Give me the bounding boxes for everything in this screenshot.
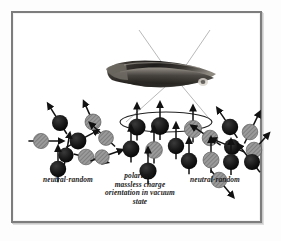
particle-sphere-light [184, 120, 201, 137]
ray-line [139, 30, 174, 80]
particle-spin [50, 107, 68, 134]
particle-sphere-light [95, 150, 109, 164]
figure-frame: neutral-random polarized-massless charge… [11, 11, 262, 223]
particle-spin [219, 111, 238, 138]
particle-sphere-dark [123, 141, 140, 158]
particle-sphere-light [78, 149, 94, 165]
figure-frame-inner: neutral-random polarized-massless charge… [13, 13, 260, 221]
particle-sphere-light [242, 124, 258, 140]
particle-sphere-dark [222, 119, 238, 135]
particle-spin [242, 115, 258, 143]
particle-sphere-dark [58, 147, 73, 162]
particle-sphere-light [85, 114, 101, 130]
caption-center: polarized-massless chargeorientation in … [97, 172, 183, 207]
ray-line [182, 86, 212, 122]
particle-sphere-dark [223, 154, 239, 170]
particle-sphere-dark [70, 133, 87, 150]
particle-spin [28, 133, 59, 148]
left-cluster [28, 105, 119, 183]
particle-sphere-light [33, 133, 48, 148]
particle-sphere-light [99, 131, 114, 146]
particle-sphere-dark [168, 138, 184, 154]
caption-right: neutral-random [172, 176, 258, 185]
caption-center-line: state [97, 198, 183, 207]
ray-lines-group [126, 30, 212, 122]
particle-spin [194, 127, 220, 145]
particle-spin [214, 139, 244, 155]
particle-spin [93, 125, 116, 146]
particle-spin [85, 105, 101, 134]
physics-diagram-figure: neutral-random polarized-massless charge… [0, 0, 281, 241]
particle-spin [66, 132, 95, 150]
particle-sphere-dark [181, 153, 197, 169]
particle-sphere-dark [224, 139, 240, 155]
particle-sphere-light [203, 152, 219, 168]
particle-sphere-dark [52, 115, 68, 131]
particle-spin [90, 150, 119, 164]
ray-line [176, 30, 210, 80]
particle-sphere-dark [244, 154, 260, 170]
particle-sphere-light [202, 130, 218, 146]
particle-spin [184, 109, 201, 142]
particle-spin [203, 141, 219, 173]
